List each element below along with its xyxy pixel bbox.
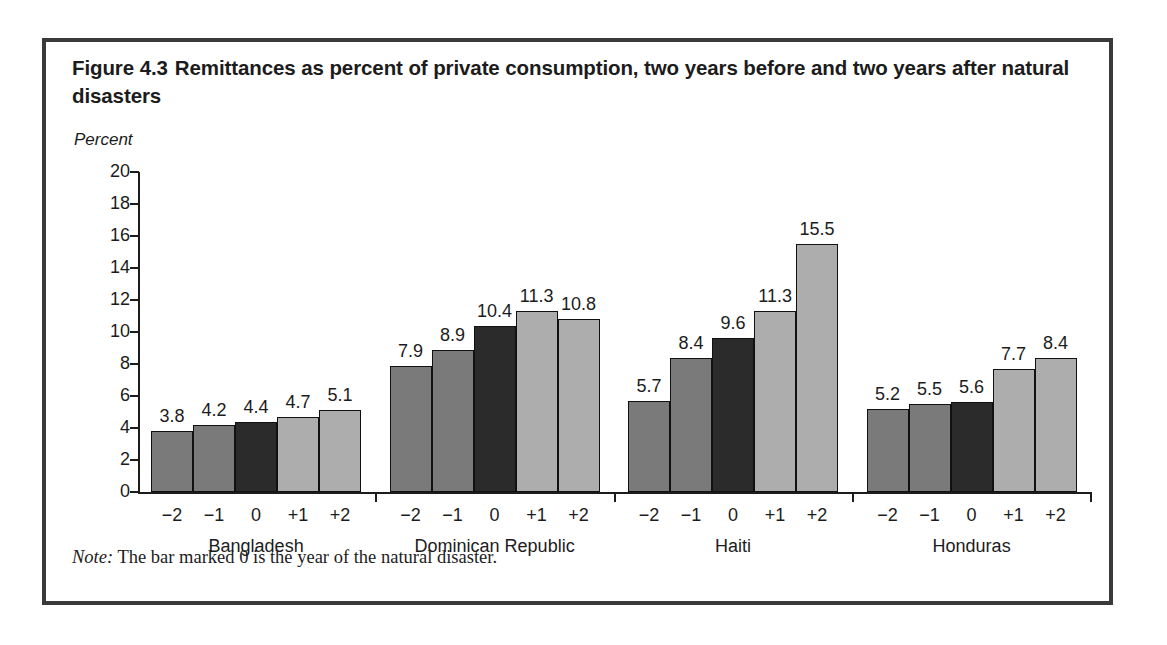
bar[interactable]: 5.6 <box>951 402 993 492</box>
bar-value-label: 8.4 <box>679 333 704 354</box>
page-title: Figure 4.3Remittances as percent of priv… <box>72 54 1072 111</box>
x-axis-tick-label: +2 <box>558 505 600 526</box>
x-axis-tick-label: −2 <box>151 505 193 526</box>
bar-value-label: 11.3 <box>758 286 792 307</box>
bar[interactable]: 10.4 <box>474 326 516 492</box>
x-axis-tick-label: −1 <box>670 505 712 526</box>
bar-group: 7.98.910.411.310.8 <box>390 171 600 492</box>
bar-value-label: 8.4 <box>1043 333 1068 354</box>
figure-title-text: Remittances as percent of private consum… <box>72 56 1069 107</box>
bar[interactable]: 4.2 <box>193 425 235 492</box>
group-name-label: Honduras <box>867 536 1077 557</box>
x-axis-group-separator-tick <box>852 493 854 502</box>
y-axis-tick-mark <box>130 235 139 237</box>
y-axis-tick-mark <box>130 459 139 461</box>
bar-group: 5.25.55.67.78.4 <box>867 171 1077 492</box>
bar-value-label: 4.7 <box>286 392 311 413</box>
bar-value-label: 10.4 <box>477 301 512 322</box>
bar-value-label: 7.7 <box>1001 344 1026 365</box>
x-axis-tick-label: −1 <box>193 505 235 526</box>
bar[interactable]: 5.7 <box>628 401 670 492</box>
y-axis-tick-label: 10 <box>90 321 130 342</box>
x-tick-label-group: −2−10+1+2 <box>867 505 1077 529</box>
bar[interactable]: 11.3 <box>754 311 796 492</box>
x-axis-tick-label: +1 <box>993 505 1035 526</box>
y-axis-tick-mark <box>130 427 139 429</box>
bar-value-label: 7.9 <box>398 341 423 362</box>
x-axis-tick-label: −1 <box>909 505 951 526</box>
y-axis-tick-mark <box>130 395 139 397</box>
x-axis-tick-label: −2 <box>867 505 909 526</box>
x-axis-tick-label: 0 <box>235 505 277 526</box>
bar-value-label: 5.6 <box>959 377 984 398</box>
y-axis-title: Percent <box>74 130 133 150</box>
x-axis-tick-label: −1 <box>432 505 474 526</box>
y-axis-tick-mark <box>130 331 139 333</box>
note-text: The bar marked 0 is the year of the natu… <box>113 547 497 567</box>
bar[interactable]: 7.7 <box>993 369 1035 492</box>
bar-value-label: 8.9 <box>440 325 465 346</box>
bar[interactable]: 4.7 <box>277 417 319 492</box>
figure-note: Note: The bar marked 0 is the year of th… <box>72 547 497 568</box>
x-axis-group-separator-tick <box>614 493 616 502</box>
x-axis-tick-label: +2 <box>1035 505 1077 526</box>
figure-frame: Figure 4.3Remittances as percent of priv… <box>42 38 1113 605</box>
y-axis-tick-mark <box>130 203 139 205</box>
bar-value-label: 5.7 <box>637 376 662 397</box>
bar[interactable]: 11.3 <box>516 311 558 492</box>
x-tick-label-group: −2−10+1+2 <box>390 505 600 529</box>
bar-group: 5.78.49.611.315.5 <box>628 171 838 492</box>
y-axis-tick-label: 16 <box>90 225 130 246</box>
x-axis-tick-label: +2 <box>319 505 361 526</box>
bar[interactable]: 8.4 <box>1035 358 1077 492</box>
bar-value-label: 15.5 <box>800 219 835 240</box>
y-axis-tick-mark <box>130 267 139 269</box>
y-axis-tick-mark <box>130 299 139 301</box>
y-axis-tick-mark <box>130 171 139 173</box>
bar[interactable]: 3.8 <box>151 431 193 492</box>
y-axis-tick-label: 12 <box>90 289 130 310</box>
bar-value-label: 5.5 <box>917 379 942 400</box>
bar-value-label: 5.2 <box>875 384 900 405</box>
bar[interactable]: 5.5 <box>909 404 951 492</box>
bar[interactable]: 5.1 <box>319 410 361 492</box>
y-axis-tick-label: 6 <box>90 385 130 406</box>
y-axis-tick-label: 0 <box>90 481 130 502</box>
y-axis-tick-label: 20 <box>90 161 130 182</box>
bar-value-label: 9.6 <box>721 313 746 334</box>
x-axis-tick-label: 0 <box>951 505 993 526</box>
bar[interactable]: 9.6 <box>712 338 754 492</box>
y-axis-tick-label: 8 <box>90 353 130 374</box>
y-axis-tick-label: 14 <box>90 257 130 278</box>
bar[interactable]: 10.8 <box>558 319 600 492</box>
x-axis-tick-label: −2 <box>390 505 432 526</box>
x-axis-tick-label: −2 <box>628 505 670 526</box>
x-axis-tick-label: +1 <box>516 505 558 526</box>
y-axis-tick-label: 4 <box>90 417 130 438</box>
y-axis-tick-label: 2 <box>90 449 130 470</box>
x-axis-tick-label: +1 <box>754 505 796 526</box>
x-axis-end-tick <box>1090 493 1092 502</box>
bar[interactable]: 8.9 <box>432 350 474 492</box>
x-tick-label-group: −2−10+1+2 <box>628 505 838 529</box>
bar-group: 3.84.24.44.75.1 <box>151 171 361 492</box>
x-axis-tick-label: +1 <box>277 505 319 526</box>
x-axis-tick-label: 0 <box>712 505 754 526</box>
x-axis-tick-label: +2 <box>796 505 838 526</box>
bar-value-label: 3.8 <box>160 406 185 427</box>
y-axis-tick-mark <box>130 363 139 365</box>
bar-value-label: 4.4 <box>244 397 269 418</box>
x-axis-group-separator-tick <box>375 493 377 502</box>
chart-plot-area: 02468101214161820 3.84.24.44.75.17.98.91… <box>72 162 1092 494</box>
y-axis-tick-label: 18 <box>90 193 130 214</box>
bar[interactable]: 4.4 <box>235 422 277 492</box>
bar[interactable]: 15.5 <box>796 244 838 492</box>
figure-number: Figure 4.3 <box>72 56 168 79</box>
bar-value-label: 11.3 <box>520 286 554 307</box>
bar[interactable]: 5.2 <box>867 409 909 492</box>
bar-value-label: 10.8 <box>561 294 596 315</box>
bar[interactable]: 8.4 <box>670 358 712 492</box>
x-tick-label-group: −2−10+1+2 <box>151 505 361 529</box>
x-axis-tick-label: 0 <box>474 505 516 526</box>
bar[interactable]: 7.9 <box>390 366 432 492</box>
